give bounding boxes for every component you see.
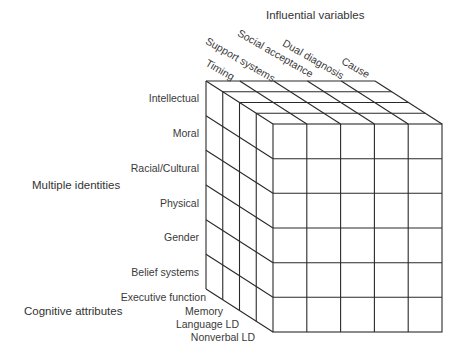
depth-axis-item-language-ld: Language LD [176,319,239,330]
left-axis-item-gender: Gender [164,232,199,243]
left-axis-item-intellectual: Intellectual [149,93,199,104]
depth-axis-title: Cognitive attributes [24,306,122,318]
top-face [206,81,442,124]
left-axis-title: Multiple identities [32,180,120,192]
depth-axis-item-nonverbal-ld: Nonverbal LD [191,332,255,343]
depth-axis-item-executive-function: Executive function [121,292,206,303]
left-axis-item-moral: Moral [173,128,199,139]
left-axis-item-racial-cultural: Racial/Cultural [131,163,199,174]
left-face [206,81,273,332]
left-axis-item-physical: Physical [160,198,199,209]
depth-axis-item-memory: Memory [185,306,223,317]
front-face [273,124,442,332]
left-axis-item-belief-systems: Belief systems [131,267,199,278]
top-axis-title: Influential variables [266,10,364,22]
